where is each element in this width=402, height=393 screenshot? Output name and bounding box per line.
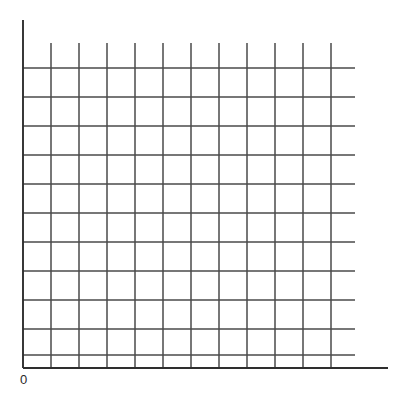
origin-label: 0	[20, 373, 27, 386]
vertical-gridlines-group	[51, 43, 331, 368]
plot-canvas	[0, 0, 402, 393]
horizontal-gridlines-group	[23, 68, 355, 355]
graph-paper-figure: 0	[0, 0, 402, 393]
